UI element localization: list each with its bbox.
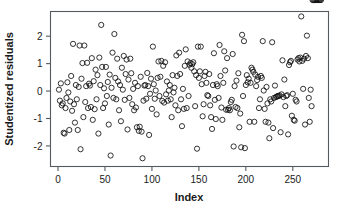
x-tick-label: 150	[191, 174, 208, 185]
x-tick-label: 50	[99, 174, 111, 185]
x-tick-label: 100	[144, 174, 161, 185]
y-axis-title: Studentized residuals	[3, 32, 15, 146]
studentized-residuals-index-plot: 050100150200250 -2-1012 Index Studentize…	[0, 0, 342, 208]
y-tick-label: 2	[37, 31, 43, 42]
x-axis-title: Index	[175, 191, 205, 203]
x-tick-label: 0	[55, 174, 61, 185]
x-tick-label: 250	[284, 174, 301, 185]
y-tick-label: -2	[34, 141, 43, 152]
y-tick-label: 1	[37, 58, 43, 69]
x-tick-label: 200	[238, 174, 255, 185]
scatter-plot-canvas: 050100150200250 -2-1012 Index Studentize…	[0, 0, 342, 208]
y-tick-label: -1	[34, 113, 43, 124]
y-tick-label: 0	[37, 86, 43, 97]
